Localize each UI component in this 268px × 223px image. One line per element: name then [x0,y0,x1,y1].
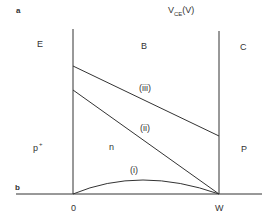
curve-i [73,180,219,194]
axis-tick-zero: 0 [71,204,76,213]
diagram-canvas [0,0,268,223]
axis-title: VCE(V) [168,6,194,17]
curve-label-iii: (iii) [139,84,151,93]
doping-label-base: n [109,143,114,152]
axis-title-unit: (V) [182,5,194,15]
region-label-base: B [141,42,147,51]
axis-tick-w: W [215,204,224,213]
curve-label-i: (i) [130,166,138,175]
region-label-collector: C [240,43,247,52]
doping-emitter-sup: + [39,141,43,147]
region-label-emitter: E [37,40,43,49]
panel-label-a: a [16,7,20,15]
panel-label-b: b [15,184,20,192]
curve-ii [73,90,219,194]
doping-label-collector: P [241,145,247,154]
doping-emitter-text: p [33,143,38,153]
doping-label-emitter: p+ [33,141,43,153]
curve-label-ii: (ii) [140,124,150,133]
